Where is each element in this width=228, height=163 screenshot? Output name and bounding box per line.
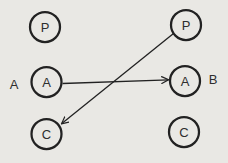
node-label-right-c: C: [179, 125, 188, 140]
diagram-svg: P A C P A C A B: [0, 0, 228, 163]
node-label-right-a: A: [181, 74, 190, 89]
person-label-right: B: [209, 72, 218, 87]
arrow-right-p-to-left-c: [62, 34, 174, 124]
node-label-left-a: A: [42, 75, 51, 90]
node-label-left-c: C: [42, 127, 51, 142]
node-label-left-p: P: [41, 20, 50, 35]
transaction-diagram: P A C P A C A B: [0, 0, 228, 163]
person-label-left: A: [10, 77, 19, 92]
node-label-right-p: P: [182, 18, 191, 33]
